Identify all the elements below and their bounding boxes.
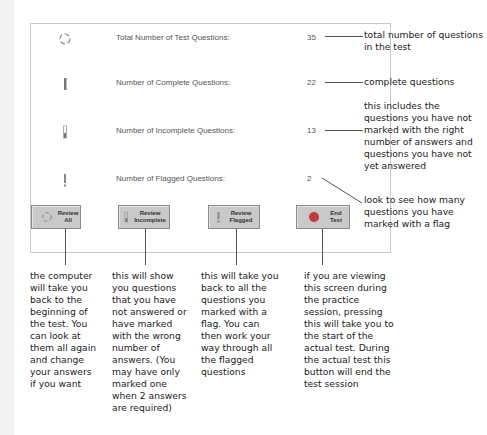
flag-exclamation-icon (57, 172, 73, 188)
description-review-flagged: this will take you back to all the quest… (201, 270, 281, 378)
summary-row-total: Total Number of Test Questions: 35 (31, 31, 390, 47)
callout-flagged: look to see how many questions you have … (364, 194, 486, 230)
review-flagged-button[interactable]: Review Flagged (208, 205, 260, 229)
review-all-button[interactable]: Review All (31, 205, 81, 229)
leader-line-end-test (322, 229, 323, 265)
review-all-label: Review All (56, 210, 80, 224)
total-questions-value: 35 (307, 33, 316, 42)
summary-row-complete: Number of Complete Questions: 22 (31, 76, 390, 92)
description-review-all: the computer will take you back to the b… (30, 270, 100, 390)
end-test-label: End Test (323, 210, 349, 224)
incomplete-bar-icon (57, 124, 73, 140)
incomplete-bar-icon (121, 211, 131, 223)
complete-bar-icon (57, 76, 73, 92)
leader-line-complete (325, 82, 363, 83)
refresh-circle-icon (38, 211, 56, 223)
callout-complete: complete questions (364, 76, 484, 88)
callout-incomplete: this includes the questions you have not… (364, 100, 484, 172)
leader-line-review-incomplete (145, 229, 146, 265)
incomplete-questions-value: 13 (307, 126, 316, 135)
description-end-test: if you are viewing this screen during th… (304, 270, 396, 390)
incomplete-questions-label: Number of Incomplete Questions: (116, 126, 235, 135)
complete-questions-label: Number of Complete Questions: (116, 78, 230, 87)
left-margin-strip (0, 0, 14, 435)
flag-exclamation-icon (213, 211, 223, 223)
description-review-incomplete: this will show you questions that you ha… (112, 270, 188, 414)
flagged-questions-label: Number of Flagged Questions: (116, 174, 225, 183)
review-flagged-label: Review Flagged (223, 210, 259, 224)
leader-line-total (325, 36, 363, 37)
leader-line-flagged (320, 176, 365, 206)
callout-total: total number of questions in the test (364, 29, 484, 53)
leader-line-review-all (65, 229, 66, 265)
leader-line-review-flagged (236, 229, 237, 265)
complete-questions-value: 22 (307, 78, 316, 87)
review-incomplete-button[interactable]: Review Incomplete (118, 205, 170, 229)
summary-row-incomplete: Number of Incomplete Questions: 13 (31, 124, 390, 140)
review-incomplete-label: Review Incomplete (131, 210, 169, 224)
red-dot-icon (305, 211, 323, 223)
total-questions-label: Total Number of Test Questions: (116, 33, 230, 42)
leader-line-incomplete (325, 130, 363, 131)
flagged-questions-value: 2 (307, 174, 311, 183)
end-test-button[interactable]: End Test (296, 205, 350, 229)
refresh-circle-icon (57, 31, 73, 47)
